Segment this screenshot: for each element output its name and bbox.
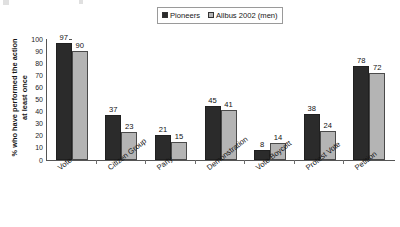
bar-value-label: 24 — [323, 122, 331, 130]
bar-pioneers: 45 — [205, 106, 221, 160]
bar-group: 2115 — [155, 39, 187, 160]
y-axis-tick-label: 50 — [29, 96, 43, 103]
bar-group: 3723 — [105, 39, 137, 160]
x-axis-tick-mark — [244, 160, 245, 164]
bar-value-label: 38 — [307, 105, 315, 113]
x-axis-tick-mark — [96, 160, 97, 164]
x-axis-tick-mark — [343, 160, 344, 164]
y-axis-tick-label: 40 — [29, 108, 43, 115]
bar-pioneers: 97 — [56, 43, 72, 160]
y-axis-tick-label: 70 — [29, 72, 43, 79]
bar-value-label: 45 — [208, 97, 216, 105]
bar-allbus: 72 — [369, 73, 385, 160]
bar-value-label: 37 — [109, 106, 117, 114]
y-axis-tick-labels: 1009080706050403020100 — [26, 39, 43, 160]
y-axis-tick-label: 90 — [29, 48, 43, 55]
bar-value-label: 23 — [125, 123, 133, 131]
legend-item-pioneers: Pioneers — [162, 11, 200, 20]
bar-value-label: 97 — [60, 34, 68, 42]
legend-label-pioneers: Pioneers — [170, 11, 200, 20]
y-axis-tick-label: 80 — [29, 60, 43, 67]
legend-label-allbus: Allbus 2002 (men) — [216, 11, 278, 20]
y-axis-tick-label: 0 — [29, 157, 43, 164]
x-axis-tick-mark — [195, 160, 196, 164]
bar-group: 9790 — [56, 39, 88, 160]
bar-group: 7872 — [353, 39, 385, 160]
bar-value-label: 21 — [159, 126, 167, 134]
y-axis-tick-label: 10 — [29, 144, 43, 151]
y-axis-title-line1: % who have performed the action — [10, 28, 20, 168]
y-axis-tick-label: 20 — [29, 132, 43, 139]
bar-value-label: 72 — [373, 64, 381, 72]
chart-legend: Pioneers Allbus 2002 (men) — [157, 7, 283, 24]
bar-value-label: 41 — [224, 101, 232, 109]
bar-value-label: 8 — [260, 141, 264, 149]
legend-item-allbus: Allbus 2002 (men) — [208, 11, 278, 20]
dark-swatch-icon — [162, 12, 168, 18]
y-axis-tick-label: 30 — [29, 120, 43, 127]
light-swatch-icon — [208, 12, 214, 18]
bar-allbus: 90 — [72, 51, 88, 160]
bar-allbus: 15 — [171, 142, 187, 160]
x-axis-tick-mark — [294, 160, 295, 164]
bar-group: 814 — [254, 39, 286, 160]
bar-pioneers: 78 — [353, 66, 369, 160]
x-axis-tick-mark — [145, 160, 146, 164]
bar-value-label: 90 — [76, 42, 84, 50]
plot-area: 979037232115454181438247872 — [46, 39, 393, 160]
y-axis-tick-label: 100 — [29, 36, 43, 43]
bar-group: 3824 — [304, 39, 336, 160]
y-axis-tick-label: 60 — [29, 84, 43, 91]
bar-value-label: 14 — [274, 134, 282, 142]
bar-group: 4541 — [205, 39, 237, 160]
bar-value-label: 78 — [357, 57, 365, 65]
scan-artifact — [3, 0, 123, 7]
bar-value-label: 15 — [175, 133, 183, 141]
